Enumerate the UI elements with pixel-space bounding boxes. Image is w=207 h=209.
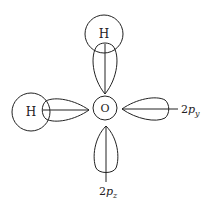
hydrogen-top-label: H [99,27,109,41]
label-2pz: 2pz [99,185,118,200]
water-orbital-diagram: H H O 2py 2pz [0,0,207,209]
oxygen-label: O [100,102,109,115]
label-2py: 2py [181,103,200,118]
diagram-canvas: H H O 2py 2pz [0,0,207,209]
hydrogen-left-label: H [26,105,36,119]
